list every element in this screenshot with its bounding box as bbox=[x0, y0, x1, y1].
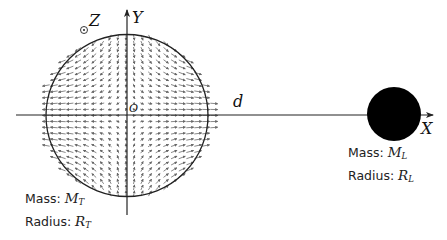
moon-disc bbox=[367, 87, 421, 141]
earth-caption: Mass: MT Radius: RT bbox=[25, 189, 91, 235]
earth-radius-prefix: Radius: bbox=[25, 214, 75, 229]
moon-radius-symbol: RL bbox=[398, 167, 414, 183]
moon-radius-prefix: Radius: bbox=[348, 168, 398, 183]
x-axis-label: X bbox=[419, 119, 433, 138]
moon-radius-line: Radius: RL bbox=[348, 166, 414, 189]
earth-mass-line: Mass: MT bbox=[25, 189, 91, 212]
earth-radius-line: Radius: RT bbox=[25, 212, 91, 235]
earth-radius-symbol: RT bbox=[75, 213, 91, 229]
z-axis-label: Z bbox=[88, 11, 101, 30]
y-axis-label: Y bbox=[132, 8, 144, 27]
z-axis-out-of-page-icon bbox=[81, 27, 88, 34]
earth-mass-symbol: MT bbox=[65, 190, 85, 206]
moon-mass-prefix: Mass: bbox=[348, 145, 388, 160]
moon-mass-line: Mass: ML bbox=[348, 143, 414, 166]
distance-label: d bbox=[233, 92, 243, 111]
moon-caption: Mass: ML Radius: RL bbox=[348, 143, 414, 189]
origin-label: O bbox=[129, 102, 138, 115]
earth-mass-prefix: Mass: bbox=[25, 191, 65, 206]
moon-mass-symbol: ML bbox=[388, 144, 407, 160]
